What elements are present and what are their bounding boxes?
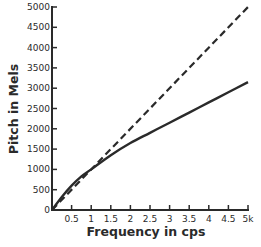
linear-reference-line bbox=[52, 7, 248, 210]
x-axis-title: Frequency in cps bbox=[87, 224, 206, 239]
plot-area bbox=[52, 7, 248, 210]
y-tick-label: 500 bbox=[33, 185, 50, 195]
x-tick-label: 2 bbox=[128, 214, 134, 224]
y-tick-label: 1000 bbox=[27, 164, 50, 174]
x-tick-label: 3 bbox=[167, 214, 173, 224]
x-tick-label: 4 bbox=[206, 214, 212, 224]
x-tick-label: 5k bbox=[243, 214, 255, 224]
y-tick-label: 0 bbox=[44, 205, 50, 215]
x-tick-label: 1.5 bbox=[104, 214, 118, 224]
y-tick-label: 5000 bbox=[27, 2, 50, 12]
x-tick-label: 1 bbox=[88, 214, 94, 224]
x-axis-ticks: 0.511.522.533.544.55k bbox=[64, 205, 254, 224]
y-tick-label: 2500 bbox=[27, 104, 50, 114]
y-tick-label: 3500 bbox=[27, 63, 50, 73]
y-axis-title: Pitch in Mels bbox=[6, 64, 21, 154]
y-tick-label: 4000 bbox=[27, 43, 50, 53]
y-tick-label: 2000 bbox=[27, 124, 50, 134]
y-tick-label: 4500 bbox=[27, 22, 50, 32]
x-tick-label: 0.5 bbox=[64, 214, 78, 224]
mel-curve bbox=[52, 82, 248, 210]
x-tick-label: 3.5 bbox=[182, 214, 196, 224]
x-tick-label: 2.5 bbox=[143, 214, 157, 224]
mel-scale-chart: 0500100015002000250030003500400045005000… bbox=[0, 0, 261, 247]
x-tick-label: 4.5 bbox=[221, 214, 235, 224]
y-tick-label: 1500 bbox=[27, 144, 50, 154]
y-tick-label: 3000 bbox=[27, 83, 50, 93]
